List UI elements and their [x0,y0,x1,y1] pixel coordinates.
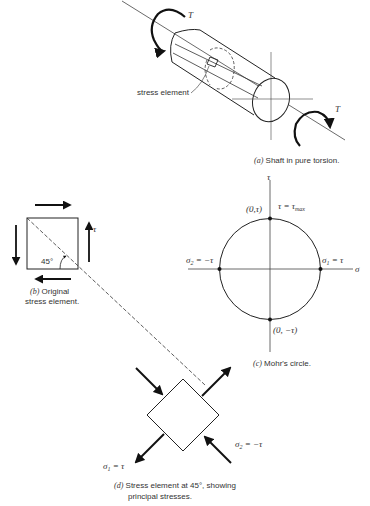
cylinder-top-edge [175,29,275,78]
caption-d-line2: principal stresses. [128,492,192,501]
bottom-point-label: (0, −τ) [273,325,297,335]
point-bottom [268,318,272,322]
stress-diagram: stress element T T (a) Shaft in pure tor… [0,0,370,506]
shaft-axis-line [122,1,345,140]
tau-label-b: τ [93,224,97,234]
panel-b-original-element: τ 45° (b) Original stress element. [16,205,97,306]
tau-max-label: τ = τmax [278,201,305,212]
angle-label: 45° [41,257,53,266]
caption-a: (a) Shaft in pure torsion. [254,156,339,165]
panel-d-rotated-element: σ1 = τ σ2 = −τ (d) Stress element at 45°… [103,368,263,501]
torque-label-top: T [188,10,194,20]
caption-c: (c) Mohr's circle. [253,359,311,368]
panel-a-shaft: stress element T T (a) Shaft in pure tor… [122,1,345,165]
tension-arrow-upper-right [202,368,230,396]
stress-element-label: stress element [137,88,190,97]
element-leader [191,66,209,93]
caption-b-line2: stress element. [25,297,79,306]
torque-label-bottom: T [335,104,341,114]
top-point-label: (0,τ) [246,204,262,214]
torque-arrow-bottom [295,112,330,146]
point-top [268,217,272,221]
compression-arrow-upper-left [136,368,162,394]
compression-arrow-lower-right [205,437,231,463]
caption-b-line1: (b) Original [30,287,69,296]
tension-arrow-lower-left [136,434,164,462]
sigma1-label-d: σ1 = τ [103,461,125,472]
point-sigma1 [319,267,323,271]
sigma2-label-c: σ2 = −τ [186,255,214,266]
sigma2-label-d: σ2 = −τ [235,439,263,450]
sigma1-label-c: σ1 = τ [322,255,344,266]
caption-d-line1: (d) Stress element at 45°, showing [114,481,236,490]
angle-arc [60,256,66,269]
point-sigma2 [218,267,222,271]
panel-c-mohrs-circle: τ σ (0,τ) τ = τmax (0, −τ) σ2 = −τ σ1 = … [186,172,360,368]
sigma-axis-label: σ [355,264,360,274]
